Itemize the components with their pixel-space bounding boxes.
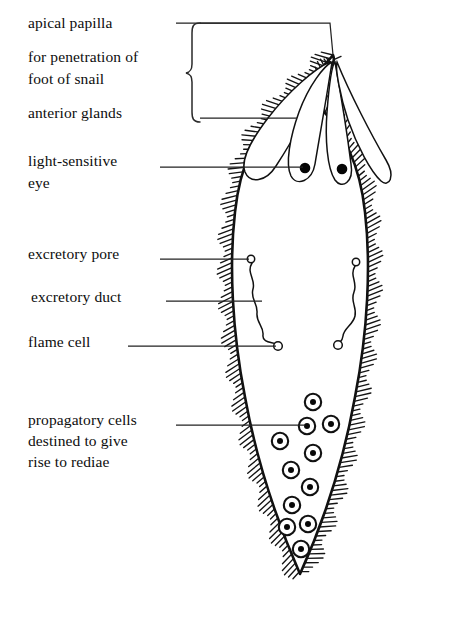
propagatory-cell-5-nucleus	[310, 450, 316, 456]
body-group	[217, 52, 391, 579]
cilium	[293, 572, 299, 579]
label-eye-2: eye	[28, 174, 50, 193]
cilium	[368, 282, 379, 287]
propagatory-cell-11-nucleus	[298, 546, 304, 552]
cilium	[249, 468, 261, 478]
miracidium-diagram	[0, 0, 451, 631]
cilium	[340, 460, 356, 463]
cilium	[260, 486, 267, 492]
label-eye-1: light-sensitive	[28, 152, 117, 171]
cilium	[222, 224, 234, 228]
cilium	[260, 482, 266, 487]
propagatory-cell-9-nucleus	[284, 524, 290, 530]
cilium	[357, 165, 365, 172]
cilium	[324, 513, 333, 514]
propagatory-cell-2-nucleus	[304, 423, 310, 429]
cilium	[366, 316, 378, 320]
cilium	[365, 325, 380, 330]
cilium	[331, 493, 347, 495]
cilium	[240, 435, 253, 445]
cilium	[349, 422, 364, 425]
cilium	[250, 449, 256, 454]
label-propagatory-1: propagatory cells	[28, 411, 137, 430]
cilium	[364, 199, 373, 204]
cilium	[234, 378, 242, 383]
flame-cell-right	[334, 341, 343, 350]
cilium	[236, 383, 242, 387]
propagatory-cell-8-nucleus	[289, 502, 295, 508]
cilium	[318, 531, 331, 532]
propagatory-cell-4-nucleus	[277, 438, 283, 444]
cilium	[232, 397, 245, 406]
cilium	[222, 195, 237, 199]
cilium	[268, 509, 275, 515]
cilium	[218, 234, 233, 240]
propagatory-cell-3-nucleus	[328, 421, 334, 427]
cilium	[225, 311, 233, 316]
cilium	[220, 272, 232, 278]
cilium	[250, 454, 257, 460]
cilium	[360, 364, 373, 368]
cilium	[354, 398, 367, 401]
cilium	[257, 477, 264, 483]
label-flame-cell: flame cell	[28, 333, 91, 352]
cilium	[236, 388, 244, 393]
cilium	[355, 393, 371, 397]
leader-apical-papilla	[176, 23, 333, 55]
cilium	[358, 171, 364, 176]
eye-right-spot	[337, 164, 348, 175]
cilium	[343, 451, 355, 453]
cilium	[242, 416, 248, 421]
cilium	[248, 444, 255, 450]
cilium	[339, 465, 352, 467]
cilium	[360, 175, 367, 180]
cilium	[315, 54, 330, 58]
cilium	[271, 514, 277, 519]
cilium	[321, 52, 333, 55]
cilium	[328, 503, 338, 504]
cilium	[361, 359, 377, 363]
cilium	[363, 186, 376, 195]
cilium	[342, 455, 358, 458]
cilium	[368, 268, 377, 272]
label-penetration-2: foot of snail	[28, 70, 104, 89]
cilium	[356, 388, 371, 392]
cilium	[348, 427, 364, 430]
label-apical-papilla: apical papilla	[28, 14, 112, 33]
cilium	[283, 550, 290, 557]
cilium	[223, 205, 236, 209]
label-propagatory-2: destined to give	[28, 432, 128, 451]
label-propagatory-3: rise to rediae	[28, 453, 109, 472]
cilium	[226, 321, 234, 325]
cilium	[220, 239, 233, 244]
propagatory-cell-1-nucleus	[310, 399, 316, 405]
cilium	[347, 432, 360, 435]
cilium	[320, 526, 336, 527]
cilium	[350, 418, 362, 421]
cilium	[323, 517, 336, 518]
cilium	[229, 345, 237, 350]
cilium	[332, 489, 348, 491]
cilium	[282, 559, 293, 571]
label-brace	[186, 23, 200, 122]
label-anterior-glands: anterior glands	[28, 104, 122, 123]
cilium	[229, 172, 243, 174]
cilium	[219, 229, 234, 234]
cilium	[285, 563, 296, 575]
cilium	[321, 521, 337, 522]
cilium	[326, 508, 334, 509]
cilium	[271, 518, 278, 525]
cilium	[365, 320, 380, 325]
label-excretory-pore: excretory pore	[28, 245, 119, 264]
label-penetration-1: for penetration of	[28, 48, 138, 67]
cilium	[366, 213, 376, 219]
cilium	[368, 261, 381, 267]
cilium	[367, 233, 376, 238]
cilium	[239, 430, 252, 440]
cilium	[260, 500, 272, 511]
cilium	[233, 402, 246, 411]
propagatory-cell-6-nucleus	[288, 467, 294, 473]
cilium	[280, 541, 286, 548]
label-excretory-duct: excretory duct	[31, 288, 121, 307]
propagatory-cell-7-nucleus	[307, 484, 313, 490]
